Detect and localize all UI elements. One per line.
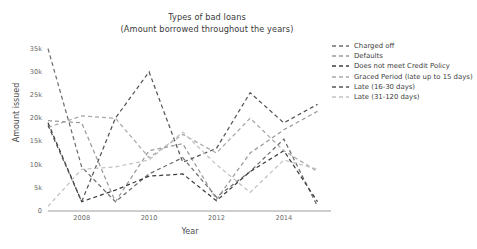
series-line (48, 116, 318, 172)
legend-label: Charged off (354, 42, 394, 50)
y-tick-label: 20k (18, 114, 42, 122)
legend-line-swatch (332, 73, 349, 81)
legend-item[interactable]: Late (16-30 days) (332, 82, 473, 92)
series-line (48, 72, 318, 202)
y-tick-label: 0 (18, 207, 42, 215)
x-tick-label: 2014 (264, 214, 304, 222)
chart-figure: Types of bad loans (Amount borrowed thro… (0, 0, 477, 249)
chart-legend: Charged offDefaultsDoes not meet Credit … (332, 41, 473, 102)
legend-line-swatch (332, 62, 349, 70)
legend-item[interactable]: Does not meet Credit Policy (332, 61, 473, 71)
legend-label: Does not meet Credit Policy (354, 62, 450, 70)
y-tick-label: 5k (18, 184, 42, 192)
legend-line-swatch (332, 93, 349, 101)
legend-label: Late (31-120 days) (354, 93, 419, 101)
legend-line-swatch (332, 83, 349, 91)
plot-canvas (0, 0, 477, 249)
legend-label: Defaults (354, 52, 383, 60)
x-tick-label: 2012 (196, 214, 236, 222)
y-tick-label: 15k (18, 137, 42, 145)
legend-item[interactable]: Graced Period (late up to 15 days) (332, 72, 473, 82)
y-tick-label: 25k (18, 91, 42, 99)
legend-label: Late (16-30 days) (354, 83, 415, 91)
data-series-group (48, 49, 318, 207)
y-tick-label: 30k (18, 68, 42, 76)
x-tick-label: 2010 (129, 214, 169, 222)
series-line (48, 132, 318, 206)
series-line (48, 49, 318, 207)
legend-item[interactable]: Charged off (332, 41, 473, 51)
series-line (48, 111, 318, 201)
y-tick-label: 10k (18, 161, 42, 169)
legend-line-swatch (332, 52, 349, 60)
y-tick-label: 35k (18, 45, 42, 53)
legend-label: Graced Period (late up to 15 days) (354, 73, 473, 81)
legend-line-swatch (332, 42, 349, 50)
legend-item[interactable]: Late (31-120 days) (332, 92, 473, 102)
legend-item[interactable]: Defaults (332, 51, 473, 61)
x-tick-label: 2008 (62, 214, 102, 222)
